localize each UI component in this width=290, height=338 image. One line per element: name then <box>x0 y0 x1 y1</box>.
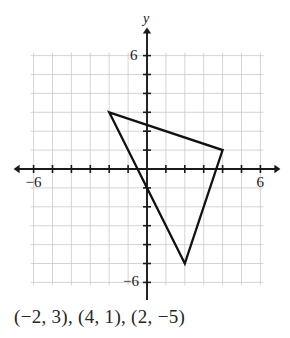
y-axis-name-label: y <box>143 12 149 26</box>
figure-caption: (−2, 3), (4, 1), (2, −5) <box>14 306 280 328</box>
coordinate-plane-svg <box>0 0 290 300</box>
axes <box>14 28 281 300</box>
y-axis-tick-label-6: 6 <box>130 48 138 63</box>
y-axis-tick-label-negative-6: −6 <box>123 274 139 289</box>
x-axis-tick-label-negative-6: −6 <box>26 175 42 190</box>
figure-container: y −6 6 6 −6 (−2, 3), (4, 1), (2, −5) <box>0 0 290 338</box>
x-axis-tick-label-6: 6 <box>256 175 264 190</box>
coordinate-plane: y −6 6 6 −6 <box>0 0 290 300</box>
